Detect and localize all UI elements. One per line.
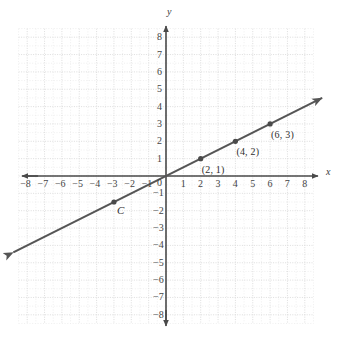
x-tick-label: 2 xyxy=(198,179,203,189)
y-tick-label: 1 xyxy=(157,154,162,164)
x-tick-label: −1 xyxy=(142,179,153,189)
x-tick-label: 1 xyxy=(181,179,186,189)
y-tick-label: 2 xyxy=(157,136,162,146)
x-tick-label: −7 xyxy=(38,179,49,189)
data-point-marker xyxy=(233,139,238,144)
point-label: (2, 1) xyxy=(202,164,225,175)
x-tick-label: −5 xyxy=(72,179,83,189)
y-tick-label: −4 xyxy=(153,240,164,250)
y-tick-label: −2 xyxy=(153,206,164,216)
x-tick-label: −4 xyxy=(90,179,101,189)
point-label: (4, 2) xyxy=(236,146,259,157)
y-axis-label: y xyxy=(167,6,171,17)
y-tick-label: 5 xyxy=(157,84,162,94)
x-tick-label: 4 xyxy=(233,179,238,189)
x-tick-label: 8 xyxy=(302,179,307,189)
axes-lines xyxy=(22,26,318,326)
line-y-equals-half-x xyxy=(13,98,322,252)
point-label: (6, 3) xyxy=(271,129,294,140)
y-tick-label: 7 xyxy=(157,50,162,60)
y-tick-label: −8 xyxy=(153,310,164,320)
plotted-line xyxy=(13,98,322,252)
x-tick-label: −3 xyxy=(107,179,118,189)
y-tick-label: 3 xyxy=(157,119,162,129)
y-tick-label: 8 xyxy=(157,32,162,42)
y-tick-label: −3 xyxy=(153,223,164,233)
y-tick-label: −7 xyxy=(153,292,164,302)
y-tick-label: −5 xyxy=(153,258,164,268)
origin-label: 0 xyxy=(157,178,162,188)
y-tick-label: 6 xyxy=(157,67,162,77)
x-axis-label: x xyxy=(326,166,330,177)
data-point-marker xyxy=(198,156,203,161)
x-tick-label: −2 xyxy=(124,179,135,189)
x-tick-label: 6 xyxy=(268,179,273,189)
graph-canvas xyxy=(0,0,339,341)
y-tick-label: −6 xyxy=(153,275,164,285)
data-point-marker xyxy=(268,121,273,126)
x-tick-label: 3 xyxy=(215,179,220,189)
data-point-marker xyxy=(111,199,116,204)
point-label: C xyxy=(117,204,125,216)
x-tick-label: 5 xyxy=(250,179,255,189)
y-tick-label: −1 xyxy=(153,188,164,198)
x-tick-label: −6 xyxy=(55,179,66,189)
x-tick-label: −8 xyxy=(20,179,31,189)
coordinate-plane-figure: y x −8−7−6−5−4−3−2−112345678 87654321−1−… xyxy=(0,0,339,341)
x-tick-label: 7 xyxy=(285,179,290,189)
y-tick-label: 4 xyxy=(157,102,162,112)
